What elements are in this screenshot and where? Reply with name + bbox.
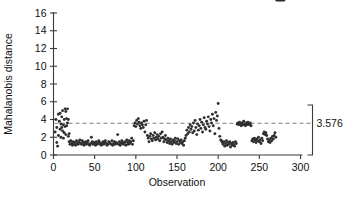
data-point [201, 130, 204, 133]
data-point [204, 128, 207, 131]
y-tick-label: 4 [41, 113, 47, 125]
data-point [65, 124, 68, 127]
data-point [173, 139, 176, 142]
data-point [260, 137, 263, 140]
data-point [265, 134, 268, 137]
data-point [274, 136, 277, 139]
y-tick-label: 0 [41, 149, 47, 161]
y-tick-label: 16 [35, 7, 47, 19]
data-point [78, 138, 81, 141]
data-point [64, 133, 67, 136]
data-point [141, 123, 144, 126]
y-axis-title: Mahalanobis distance [2, 33, 14, 135]
data-point [250, 124, 253, 127]
data-point [61, 109, 64, 112]
data-point [176, 140, 179, 143]
data-point [214, 111, 217, 114]
data-point [55, 118, 58, 121]
data-point [111, 139, 114, 142]
data-point [132, 139, 135, 142]
data-point [218, 135, 221, 138]
data-point [137, 117, 140, 120]
data-point [59, 122, 62, 125]
data-point [152, 134, 155, 137]
data-point [58, 120, 61, 123]
data-point [213, 132, 216, 135]
data-point [145, 119, 148, 122]
data-point [187, 126, 190, 129]
data-point [272, 138, 275, 141]
data-point [182, 144, 185, 147]
data-point [200, 121, 203, 124]
data-point [158, 139, 161, 142]
data-point [210, 122, 213, 125]
data-point [197, 129, 200, 132]
data-point [148, 135, 151, 138]
data-point [57, 134, 60, 137]
data-point [194, 119, 197, 122]
y-tick-label: 12 [35, 42, 47, 54]
data-point [143, 130, 146, 133]
data-point [75, 139, 78, 142]
data-point [235, 142, 238, 145]
data-point [188, 130, 191, 133]
data-point [69, 139, 72, 142]
data-point [164, 134, 167, 137]
data-point [67, 135, 70, 138]
data-point [131, 143, 134, 146]
data-point [184, 137, 187, 140]
threshold-line-layer [55, 105, 313, 155]
data-point [174, 137, 177, 140]
data-point [193, 130, 196, 133]
threshold-bracket [308, 105, 313, 155]
data-point [208, 130, 211, 133]
data-point [223, 145, 226, 148]
data-point [185, 129, 188, 132]
data-point [203, 116, 206, 119]
data-point [227, 143, 230, 146]
x-tick-label: 50 [89, 161, 101, 173]
threshold-value-label: 3.576 [317, 117, 343, 129]
data-point [195, 133, 198, 136]
data-point [104, 139, 107, 142]
data-point [125, 138, 128, 141]
data-point [64, 110, 67, 113]
y-tick-label: 2 [41, 131, 47, 143]
data-point [274, 131, 277, 134]
data-point [199, 118, 202, 121]
data-point [166, 137, 169, 140]
x-tick-label: 100 [127, 161, 145, 173]
data-point [66, 122, 69, 125]
data-point [62, 137, 65, 140]
data-point [212, 124, 215, 127]
data-point [68, 132, 71, 135]
data-point [130, 137, 133, 140]
data-point [216, 115, 219, 118]
data-point [218, 127, 221, 130]
data-point [134, 125, 137, 128]
data-point [59, 136, 62, 139]
data-point [211, 113, 214, 116]
data-point [87, 139, 90, 142]
y-tick-label: 8 [41, 78, 47, 90]
data-point [144, 123, 147, 126]
x-axis-title: Observation [149, 176, 206, 188]
data-point [153, 131, 156, 134]
data-point [148, 140, 151, 143]
data-point [190, 128, 193, 131]
data-point [202, 123, 205, 126]
data-point [55, 141, 58, 144]
data-point [63, 118, 66, 121]
data-point [116, 133, 119, 136]
data-point [64, 107, 67, 110]
data-points-layer [54, 0, 286, 148]
data-point [199, 127, 202, 130]
x-tick-label: 200 [209, 161, 227, 173]
x-tick-label: 0 [51, 161, 57, 173]
y-tick-label: 14 [35, 24, 47, 36]
data-point [67, 118, 70, 121]
data-point [60, 115, 63, 118]
x-tick-label: 300 [292, 161, 310, 173]
data-point [213, 117, 216, 120]
y-tick-label: 10 [35, 60, 47, 72]
